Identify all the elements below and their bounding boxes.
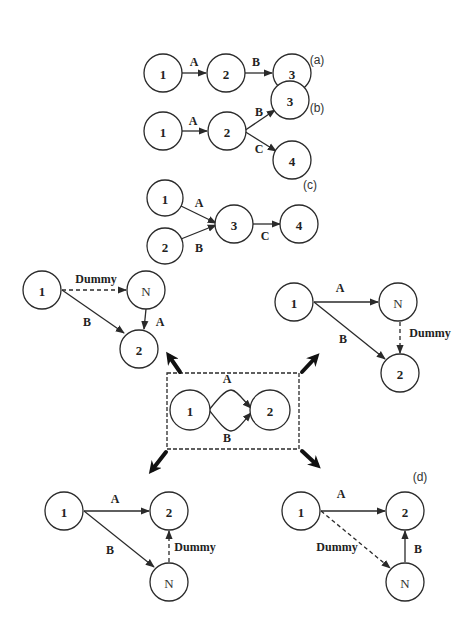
edge-label-A: A xyxy=(156,315,165,329)
panel-label-a: (a) xyxy=(310,53,325,67)
panel-b: 1 2 3 4 A B C (b) xyxy=(144,81,324,179)
variant-top-right: 1 N 2 A Dummy B xyxy=(275,281,451,392)
node-label: 1 xyxy=(187,404,194,419)
edge-B-curved xyxy=(209,410,251,431)
edge-label-dummy: Dummy xyxy=(409,326,450,340)
variant-bottom-right: 1 2 N A Dummy B (d) xyxy=(282,470,427,601)
edge-B xyxy=(62,290,124,333)
edge-label-B: B xyxy=(195,241,203,255)
edge-A xyxy=(144,309,146,329)
node-label: 3 xyxy=(287,94,294,109)
node-label: 2 xyxy=(397,367,404,382)
edge-label-dummy: Dummy xyxy=(174,540,215,554)
arrow-down-left-icon xyxy=(152,452,166,470)
edge-label-dummy: Dummy xyxy=(316,540,357,554)
panel-c: 1 2 3 4 A B C (c) xyxy=(147,178,318,264)
edge-label-A: A xyxy=(189,114,198,128)
panel-label-d: (d) xyxy=(413,470,428,484)
arrow-down-right-icon xyxy=(302,451,317,465)
node-label: 1 xyxy=(298,505,305,520)
edge-B xyxy=(84,511,154,567)
variant-center: 1 2 A B xyxy=(167,372,299,449)
node-label: 1 xyxy=(160,67,167,82)
edge-label-A: A xyxy=(190,55,199,69)
node-label: 2 xyxy=(223,67,230,82)
edge-label-A: A xyxy=(223,372,232,386)
arrow-up-right-icon xyxy=(302,357,316,372)
variant-top-left: 1 N 2 Dummy A B xyxy=(23,271,165,368)
node-label: 2 xyxy=(166,505,173,520)
node-label: 4 xyxy=(289,154,296,169)
edge-label-A: A xyxy=(195,196,204,210)
node-label: 2 xyxy=(224,125,231,140)
node-label: 4 xyxy=(296,218,303,233)
variant-bottom-left: 1 2 N A B Dummy xyxy=(45,492,216,601)
edge-label-C: C xyxy=(255,142,264,156)
edge-label-A: A xyxy=(337,487,346,501)
node-label: 2 xyxy=(136,343,143,358)
edge-label-A: A xyxy=(336,281,345,295)
edge-label-B: B xyxy=(106,543,114,557)
edge-label-B: B xyxy=(339,332,347,346)
edge-label-B: B xyxy=(223,431,231,445)
node-label: 1 xyxy=(160,125,167,140)
edge-label-B: B xyxy=(255,105,263,119)
node-label: N xyxy=(164,576,174,591)
node-label: 1 xyxy=(162,192,169,207)
node-label: N xyxy=(400,576,410,591)
node-label: 2 xyxy=(162,240,169,255)
edge-label-B: B xyxy=(252,55,260,69)
node-label: 3 xyxy=(231,218,238,233)
node-label: 1 xyxy=(39,284,46,299)
node-label: 3 xyxy=(289,67,296,82)
edge-c-2-3 xyxy=(181,225,216,239)
edge-label-dummy: Dummy xyxy=(75,272,116,286)
edge-label-B: B xyxy=(83,315,91,329)
network-diagram: 1 2 3 A B (a) 1 2 3 4 A B C (b) 1 2 3 4 xyxy=(0,0,463,620)
node-label: 2 xyxy=(402,505,409,520)
arrow-up-left-icon xyxy=(169,356,180,372)
edge-B xyxy=(314,302,385,359)
node-label: N xyxy=(141,284,151,299)
node-label: 2 xyxy=(267,404,274,419)
edge-label-C: C xyxy=(261,229,270,243)
panel-label-c: (c) xyxy=(303,178,317,192)
panel-label-b: (b) xyxy=(310,101,325,115)
edge-label-A: A xyxy=(111,492,120,506)
edge-A-curved xyxy=(209,390,251,410)
node-label: N xyxy=(393,296,403,311)
node-label: 1 xyxy=(61,505,68,520)
edge-label-B: B xyxy=(414,542,422,556)
node-label: 1 xyxy=(291,296,298,311)
